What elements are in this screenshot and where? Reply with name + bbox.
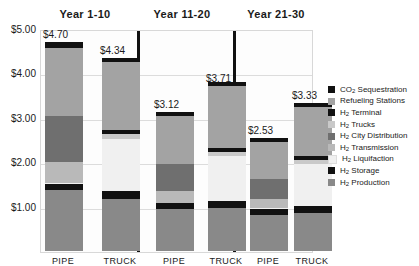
legend-label: CO2 Sequestration: [340, 86, 407, 94]
bar-truck-4[interactable]: [208, 82, 246, 252]
subscript: 2: [348, 157, 351, 163]
segment-h2-production: [45, 190, 83, 251]
segment-refueling-stations: [102, 62, 140, 130]
segment-refueling-stations: [250, 142, 288, 179]
segment-h2-city-distribution: [156, 164, 194, 192]
panel-title-3: Year 21-30: [226, 8, 326, 20]
y-tick-100: $1.00: [0, 202, 36, 213]
segment-h2-production: [208, 208, 246, 251]
x-tick-pipe-3: PIPE: [144, 256, 204, 266]
bar-pipe-3[interactable]: [156, 112, 194, 251]
legend-item-2[interactable]: H2 Terminal: [328, 107, 419, 119]
segment-h2-storage: [208, 201, 246, 208]
segment-h2-storage: [102, 191, 140, 199]
chart-root: Year 1-10Year 11-20Year 21-30 $1.00$2.00…: [0, 0, 419, 266]
segment-h2-liquifaction: [294, 164, 332, 206]
legend-label: Refueling Stations: [340, 97, 405, 105]
y-tick-400: $4.00: [0, 68, 36, 79]
legend-item-3[interactable]: H2 Trucks: [328, 119, 419, 131]
segment-h2-liquifaction: [102, 139, 140, 192]
segment-h2-storage: [294, 206, 332, 213]
x-tick-truck-2: TRUCK: [90, 256, 150, 266]
value-label-1: $4.70: [43, 29, 68, 40]
segment-h2-transmission: [156, 191, 194, 202]
y-tick-200: $2.00: [0, 157, 36, 168]
legend-item-7[interactable]: H2 Storage: [328, 165, 419, 177]
y-tick-300: $3.00: [0, 113, 36, 124]
legend-swatch-icon: [328, 86, 335, 93]
legend-swatch-icon: [328, 133, 335, 140]
value-label-2: $4.34: [100, 45, 125, 56]
legend-item-1[interactable]: Refueling Stations: [328, 96, 419, 108]
segment-h2-liquifaction: [208, 156, 246, 201]
legend-label: H2 Trucks: [340, 121, 375, 129]
legend-swatch-icon: [328, 167, 335, 174]
legend-swatch-icon: [328, 98, 335, 105]
legend-label: H2 Liquifaction: [342, 155, 394, 163]
value-label-5: $2.53: [248, 125, 273, 136]
value-label-4: $3.71: [206, 73, 231, 84]
legend-item-8[interactable]: H2 Production: [328, 177, 419, 189]
subscript: 2: [346, 181, 349, 187]
legend-swatch-icon: [328, 121, 335, 128]
segment-h2-transmission: [250, 199, 288, 209]
legend-label: H2 Storage: [340, 167, 379, 175]
segment-h2-production: [102, 199, 140, 251]
bar-pipe-1[interactable]: [45, 42, 83, 251]
segment-refueling-stations: [208, 86, 246, 148]
segment-h2-city-distribution: [250, 179, 288, 199]
subscript: 2: [346, 146, 349, 152]
legend-item-5[interactable]: H2 Transmission: [328, 142, 419, 154]
subscript: 2: [346, 123, 349, 129]
subscript: 2: [346, 111, 349, 117]
segment-h2-production: [294, 213, 332, 251]
legend-swatch-icon: [328, 155, 337, 164]
segment-refueling-stations: [294, 107, 332, 156]
bar-pipe-5[interactable]: [250, 138, 288, 251]
value-label-6: $3.33: [292, 90, 317, 101]
legend: CO2 SequestrationRefueling StationsH2 Te…: [328, 84, 419, 188]
panel-title-1: Year 1-10: [35, 8, 135, 20]
segment-h2-production: [156, 209, 194, 251]
subscript: 2: [346, 134, 349, 140]
legend-item-6[interactable]: H2 Liquifaction: [328, 154, 419, 166]
legend-label: H2 City Distribution: [340, 132, 407, 140]
legend-label: H2 Production: [340, 179, 390, 187]
subscript: 2: [346, 169, 349, 175]
legend-swatch-icon: [328, 109, 335, 116]
legend-swatch-icon: [328, 179, 335, 186]
subscript: 2: [352, 88, 355, 94]
segment-h2-city-distribution: [45, 116, 83, 161]
legend-item-0[interactable]: CO2 Sequestration: [328, 84, 419, 96]
segment-refueling-stations: [156, 116, 194, 164]
x-tick-pipe-1: PIPE: [33, 256, 93, 266]
bar-truck-2[interactable]: [102, 58, 140, 251]
legend-item-4[interactable]: H2 City Distribution: [328, 130, 419, 142]
x-tick-truck-6: TRUCK: [282, 256, 342, 266]
value-label-3: $3.12: [154, 99, 179, 110]
legend-label: H2 Terminal: [340, 109, 381, 117]
panel-title-2: Year 11-20: [132, 8, 232, 20]
y-tick-500: $5.00: [0, 24, 36, 35]
legend-swatch-icon: [328, 144, 335, 151]
legend-label: H2 Transmission: [340, 144, 398, 152]
segment-h2-transmission: [45, 162, 83, 183]
bar-truck-6[interactable]: [294, 103, 332, 251]
segment-h2-production: [250, 215, 288, 251]
plot-area: [40, 30, 313, 253]
segment-refueling-stations: [45, 48, 83, 117]
